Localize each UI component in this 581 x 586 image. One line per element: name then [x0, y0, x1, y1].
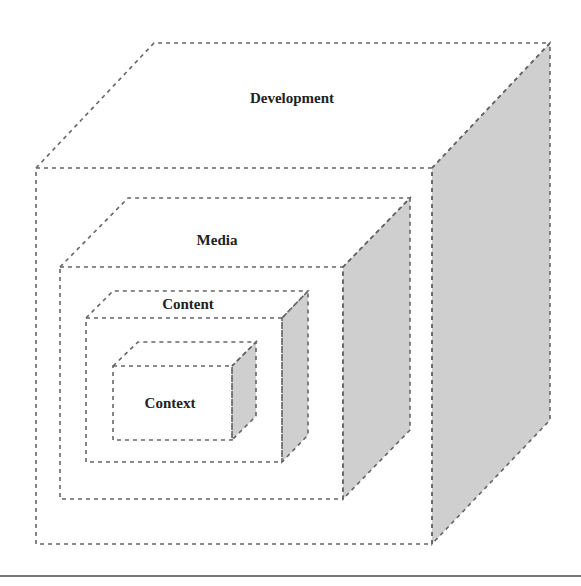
nested-cube-diagram: Development Media Content Context: [0, 0, 581, 586]
box-media: Media: [60, 198, 410, 499]
context-top-face: [113, 342, 256, 366]
content-label: Content: [162, 296, 214, 312]
context-label: Context: [145, 395, 196, 411]
media-side-face: [343, 198, 410, 499]
media-label: Media: [197, 232, 238, 248]
development-label: Development: [250, 90, 334, 106]
development-side-face: [432, 43, 550, 544]
context-side-face: [232, 342, 256, 440]
box-development: Development: [36, 43, 550, 544]
content-side-face: [282, 291, 308, 462]
box-context: Context: [113, 342, 256, 440]
box-content: Content: [86, 291, 308, 462]
